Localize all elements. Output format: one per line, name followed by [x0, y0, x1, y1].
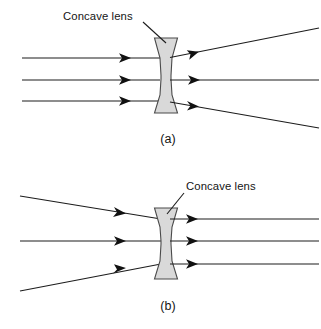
concave-lens-a: [155, 38, 178, 113]
panel-caption-a: (a): [160, 132, 175, 146]
panel-a-incoming-rays: [22, 53, 160, 106]
panel-b-incoming-rays: [20, 196, 161, 291]
panel-b: Concave lens (b): [20, 180, 319, 313]
ray-incoming-lower-b: [20, 264, 161, 291]
panel-a: Concave lens (a): [22, 10, 319, 146]
panel-b-outgoing-rays: [170, 214, 319, 269]
annotation-label-b: Concave lens: [186, 180, 256, 192]
ray-diagram-canvas: Concave lens (a): [0, 0, 321, 329]
figure-root: Concave lens (a): [0, 0, 321, 329]
annotation-concave-lens-b: Concave lens: [167, 180, 256, 214]
panel-a-outgoing-rays: [170, 28, 319, 128]
panel-caption-b: (b): [160, 299, 175, 313]
ray-incoming-upper-b: [20, 196, 161, 219]
annotation-concave-lens-a: Concave lens: [63, 10, 166, 43]
annotation-label-a: Concave lens: [63, 10, 133, 22]
arrowhead-outgoing-upper: [187, 50, 199, 60]
